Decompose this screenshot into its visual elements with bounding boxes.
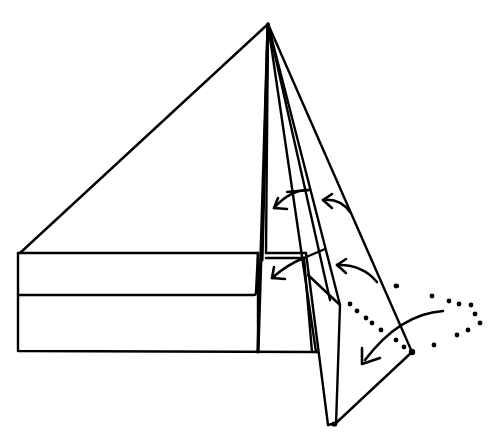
fold-arrow-upper-inner xyxy=(274,190,308,209)
flap-layers xyxy=(258,24,412,425)
fold-arrow-lower-outer xyxy=(337,259,377,282)
origami-diagram xyxy=(0,0,490,438)
left-triangle xyxy=(20,24,268,253)
fold-arrow-lower-inner xyxy=(272,258,304,279)
fold-arrow-curved-dotted xyxy=(362,311,443,364)
